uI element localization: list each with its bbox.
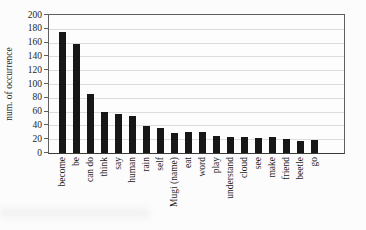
x-axis-label: friend xyxy=(282,157,291,180)
y-axis-tick xyxy=(44,55,48,56)
y-axis-tick-label: 180 xyxy=(12,23,42,34)
y-axis-tick-label: 20 xyxy=(12,134,42,145)
bar-mugi-name- xyxy=(171,133,178,153)
y-axis-tick xyxy=(44,42,48,43)
bar-become xyxy=(59,32,66,153)
plot-area xyxy=(48,14,345,154)
bar-human xyxy=(129,116,136,153)
word-frequency-bar-chart: num. of occurrence 020406080100120140160… xyxy=(0,0,366,230)
y-axis-tick-label: 120 xyxy=(12,65,42,76)
bar-beetle xyxy=(297,141,304,153)
bar-go xyxy=(311,140,318,153)
x-axis-label: eat xyxy=(184,157,193,168)
x-axis-label: Mugi (name) xyxy=(170,157,179,207)
y-axis-tick xyxy=(44,138,48,139)
y-axis-tick xyxy=(44,124,48,125)
x-axis-label: see xyxy=(254,157,263,169)
bar-be xyxy=(73,44,80,153)
x-axis-label: rain xyxy=(142,157,151,172)
x-axis-label: think xyxy=(100,157,109,177)
x-axis-label: be xyxy=(72,157,81,166)
y-axis-tick-label: 40 xyxy=(12,120,42,131)
x-axis-label: go xyxy=(310,157,319,167)
bar-eat xyxy=(185,132,192,153)
x-axis-label: can do xyxy=(86,157,95,182)
scan-artifact xyxy=(0,208,150,218)
x-axis-label: say xyxy=(114,157,123,170)
bar-think xyxy=(101,112,108,153)
x-axis-label: human xyxy=(128,157,137,183)
bar-play xyxy=(213,136,220,153)
y-axis-tick-label: 140 xyxy=(12,51,42,62)
bar-friend xyxy=(283,139,290,153)
x-axis-label: cloud xyxy=(240,157,249,178)
bar-rain xyxy=(143,126,150,153)
gridline xyxy=(49,43,344,44)
y-axis-tick xyxy=(44,83,48,84)
bar-understand xyxy=(227,137,234,153)
bar-see xyxy=(255,138,262,153)
y-axis-tick xyxy=(44,28,48,29)
gridline xyxy=(49,29,344,30)
x-axis-label: become xyxy=(58,157,67,187)
y-axis-tick xyxy=(44,152,48,153)
gridline xyxy=(49,70,344,71)
y-axis-tick xyxy=(44,111,48,112)
bar-make xyxy=(269,137,276,153)
x-axis-label: beetle xyxy=(296,157,305,180)
bar-self xyxy=(157,128,164,153)
x-axis-label: understand xyxy=(226,157,235,199)
y-axis-tick-label: 200 xyxy=(12,10,42,21)
gridline xyxy=(49,84,344,85)
bar-word xyxy=(199,132,206,153)
x-axis-label: self xyxy=(156,157,165,171)
x-axis-label: make xyxy=(268,157,277,178)
y-axis-tick xyxy=(44,69,48,70)
y-axis-tick-label: 0 xyxy=(12,148,42,159)
y-axis-tick-label: 100 xyxy=(12,79,42,90)
bar-cloud xyxy=(241,137,248,153)
y-axis-tick-label: 80 xyxy=(12,92,42,103)
bar-say xyxy=(115,114,122,153)
gridline xyxy=(49,56,344,57)
x-axis-label: word xyxy=(198,157,207,177)
x-axis-label: play xyxy=(212,157,221,173)
y-axis-tick-label: 160 xyxy=(12,37,42,48)
y-axis-tick xyxy=(44,14,48,15)
y-axis-tick-label: 60 xyxy=(12,106,42,117)
bar-can-do xyxy=(87,94,94,153)
y-axis-tick xyxy=(44,97,48,98)
